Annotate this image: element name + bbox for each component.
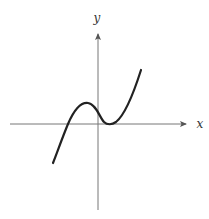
function-curve xyxy=(53,70,141,163)
x-axis-label: x xyxy=(197,117,204,131)
graph-canvas: y x xyxy=(0,0,209,219)
y-axis-label: y xyxy=(93,11,101,25)
function-graph: y x xyxy=(0,0,209,219)
